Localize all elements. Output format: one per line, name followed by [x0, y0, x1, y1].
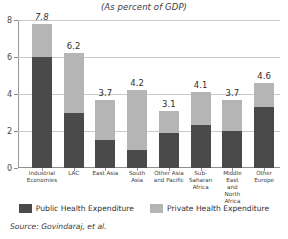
legend-swatch-public [19, 204, 32, 213]
bar-group[interactable]: 3.1 [159, 111, 179, 168]
bar-value-label: 3.7 [226, 88, 240, 98]
category-label-line: South [121, 170, 153, 177]
y-tick-label: 6 [7, 53, 12, 62]
bar-segment-private[interactable] [254, 83, 274, 107]
bar-segment-public[interactable] [254, 107, 274, 168]
category-label: Middle EastandNorth Africa [217, 170, 249, 205]
bar-segment-public[interactable] [191, 125, 211, 168]
bar-value-label: 3.7 [99, 88, 113, 98]
category-label-line: East Asia [90, 170, 122, 177]
bar-segment-private[interactable] [64, 53, 84, 112]
y-tick-label: 0 [7, 164, 12, 173]
bar-segment-private[interactable] [95, 100, 115, 141]
category-label: East Asia [90, 170, 122, 177]
bar-value-label: 4.6 [257, 71, 271, 81]
legend-label: Private Health Expenditure [167, 204, 269, 213]
y-tick-mark [14, 168, 18, 169]
category-label: Sub-SaharanAfrica [185, 170, 217, 191]
bar-value-label: 7.8 [35, 12, 49, 22]
chart-title: (As percent of GDP) [0, 2, 288, 12]
bar-segment-public[interactable] [127, 150, 147, 169]
category-label-line: Other Asia [153, 170, 185, 177]
bar-segment-private[interactable] [32, 24, 52, 57]
category-axis-labels: IndustrialEconomiesLACEast AsiaSouthAsia… [18, 170, 280, 202]
category-label-line: Asia [121, 177, 153, 184]
category-label: SouthAsia [121, 170, 153, 184]
bar-value-label: 3.1 [162, 99, 176, 109]
category-label-line: and [217, 184, 249, 191]
bar-group[interactable]: 3.7 [222, 100, 242, 168]
y-tick-label: 4 [7, 90, 12, 99]
bar-segment-public[interactable] [32, 57, 52, 168]
bar-value-label: 4.1 [194, 80, 208, 90]
category-label-line: Middle East [217, 170, 249, 184]
bar-group[interactable]: 4.2 [127, 90, 147, 168]
legend-item[interactable]: Public Health Expenditure [19, 204, 134, 213]
chart-figure: (As percent of GDP) 02468 7.86.23.74.23.… [0, 0, 288, 239]
category-label-line: Other [248, 170, 280, 177]
category-label-line: Industrial [26, 170, 58, 177]
bar-segment-private[interactable] [191, 92, 211, 125]
bar-segment-private[interactable] [159, 111, 179, 133]
bar-segment-public[interactable] [95, 140, 115, 168]
bar-group[interactable]: 7.8 [32, 24, 52, 168]
category-label-line: and Pacific [153, 177, 185, 184]
legend-swatch-private [150, 204, 163, 213]
bar-group[interactable]: 3.7 [95, 100, 115, 168]
category-label-line: Saharan [185, 177, 217, 184]
bar-segment-public[interactable] [222, 131, 242, 168]
chart-legend: Public Health ExpenditurePrivate Health … [0, 204, 288, 213]
category-label: IndustrialEconomies [26, 170, 58, 184]
bar-segment-public[interactable] [64, 113, 84, 169]
bars-layer: 7.86.23.74.23.14.13.74.6 [18, 20, 280, 168]
category-label-line: Economies [26, 177, 58, 184]
bar-group[interactable]: 6.2 [64, 53, 84, 168]
plot-area: 02468 7.86.23.74.23.14.13.74.6 [18, 20, 280, 168]
bar-segment-public[interactable] [159, 133, 179, 168]
bar-group[interactable]: 4.1 [191, 92, 211, 168]
y-tick-label: 2 [7, 127, 12, 136]
source-note: Source: Govindaraj, et al. [10, 222, 107, 231]
category-label-line: LAC [58, 170, 90, 177]
bar-value-label: 4.2 [130, 78, 144, 88]
category-label-line: Africa [185, 184, 217, 191]
bar-segment-private[interactable] [222, 100, 242, 131]
category-label: OtherEurope [248, 170, 280, 184]
bar-value-label: 6.2 [67, 41, 81, 51]
bar-group[interactable]: 4.6 [254, 83, 274, 168]
legend-item[interactable]: Private Health Expenditure [150, 204, 269, 213]
legend-label: Public Health Expenditure [36, 204, 134, 213]
category-label: LAC [58, 170, 90, 177]
category-label-line: North Africa [217, 191, 249, 205]
category-label-line: Sub- [185, 170, 217, 177]
bar-segment-private[interactable] [127, 90, 147, 149]
category-label-line: Europe [248, 177, 280, 184]
category-label: Other Asiaand Pacific [153, 170, 185, 184]
y-tick-label: 8 [7, 16, 12, 25]
